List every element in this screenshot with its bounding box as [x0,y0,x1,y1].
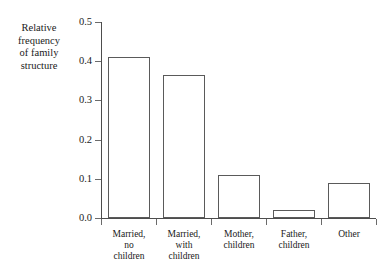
y-tick-label: 0.3 [60,95,92,106]
x-tick-mark [321,219,322,225]
bar-mother-children [218,175,260,218]
y-tick-label: 0.4 [60,56,92,67]
x-category-label: Married, with children [156,229,212,262]
y-tick-mark [95,100,101,101]
bar-chart: Relative frequency of family structure 0… [0,0,388,272]
x-tick-mark [156,219,157,225]
y-tick-mark [95,61,101,62]
y-tick-label: 0.2 [60,135,92,146]
bar-father-children [273,210,315,218]
x-tick-mark [266,219,267,225]
x-axis-line [101,218,376,219]
y-tick-mark [95,179,101,180]
x-category-label: Married, no children [101,229,157,262]
x-category-label: Father, children [266,229,322,251]
x-tick-mark [376,219,377,225]
bar-other [328,183,370,218]
x-category-label: Mother, children [211,229,267,251]
y-tick-mark [95,22,101,23]
x-tick-mark [101,219,102,225]
y-axis-line [101,22,102,219]
x-tick-mark [211,219,212,225]
y-tick-label: 0.0 [60,213,92,224]
y-tick-mark [95,140,101,141]
bar-married-with-children [163,75,205,218]
y-tick-label: 0.5 [60,17,92,28]
bar-married-no-children [108,57,150,218]
y-tick-label: 0.1 [60,174,92,185]
x-category-label: Other [321,229,377,240]
